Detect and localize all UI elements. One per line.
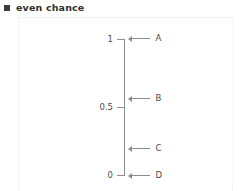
axis-tick-0 [117, 175, 124, 176]
axis-tick-0point5 [117, 107, 124, 108]
number-line-plot: 1 0.5 0 A B C D [0, 0, 239, 191]
annotation-label-b: B [156, 94, 162, 103]
annotation-label-c: C [156, 144, 162, 153]
annotation-leader-line [132, 148, 150, 149]
axis-tick-label-0: 0 [73, 171, 113, 180]
axis-tick-1 [117, 39, 124, 40]
annotation-label-d: D [156, 171, 163, 180]
vertical-axis-line [124, 39, 125, 176]
annotation-leader-line [132, 175, 150, 176]
annotation-leader-line [132, 38, 150, 39]
axis-tick-label-0point5: 0.5 [73, 103, 113, 112]
annotation-leader-line [132, 98, 150, 99]
axis-tick-label-1: 1 [73, 35, 113, 44]
annotation-b: B [128, 93, 161, 104]
annotation-d: D [128, 170, 162, 181]
annotation-c: C [128, 143, 161, 154]
annotation-a: A [128, 33, 161, 44]
annotation-label-a: A [156, 34, 162, 43]
